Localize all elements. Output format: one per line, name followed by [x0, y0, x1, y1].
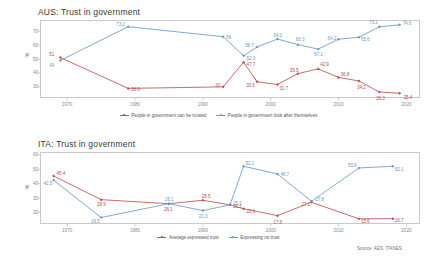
- aus-point-label: 60.3: [296, 37, 305, 42]
- ita-point-label: 26.1: [165, 197, 174, 202]
- aus-data-point: [296, 43, 299, 46]
- aus-x-tick: 2020: [396, 102, 416, 107]
- aus-y-tick: 70: [28, 29, 38, 34]
- aus-point-label: 30: [215, 83, 220, 88]
- aus-point-label: 73.2: [116, 22, 125, 27]
- aus-point-label: 34.2: [357, 85, 366, 90]
- aus-y-tick: 50: [28, 57, 38, 62]
- diamond-line-marker-icon: [157, 235, 166, 240]
- ita-point-label: 27.1: [301, 202, 310, 207]
- aus-legend-label-themselves: People in government look after themselv…: [228, 113, 317, 118]
- aus-point-label: 25.4: [404, 95, 413, 100]
- aus-point-label: 66: [226, 35, 231, 40]
- aus-data-point: [398, 23, 401, 26]
- ita-point-label: 28.5: [202, 194, 211, 199]
- diamond-line-marker-icon: [216, 113, 225, 118]
- diamond-line-marker-icon: [229, 235, 238, 240]
- ita-point-label: 46.7: [281, 172, 290, 177]
- ita-y-tick: 50: [28, 167, 38, 172]
- aus-series-line: [60, 25, 399, 61]
- aus-x-tick: 1990: [193, 102, 213, 107]
- ita-point-label: 52.1: [395, 167, 404, 172]
- ita-point-label: 16.5: [91, 219, 100, 224]
- ita-data-point: [229, 203, 232, 206]
- ita-x-tick: 2020: [396, 228, 416, 233]
- aus-point-label: 51: [49, 52, 54, 57]
- aus-data-point: [127, 87, 130, 90]
- source-note: Source: AES, ITANES: [357, 246, 402, 251]
- aus-point-label: 31.7: [280, 86, 289, 91]
- aus-x-tick: 1970: [57, 102, 77, 107]
- aus-data-point: [317, 48, 320, 51]
- ita-x-tick: 1980: [125, 228, 145, 233]
- aus-point-label: 57.1: [314, 52, 323, 57]
- ita-data-point: [276, 214, 279, 217]
- aus-data-point: [398, 92, 401, 95]
- ita-y-tick: 60: [28, 152, 38, 157]
- aus-point-label: 26.3: [376, 96, 385, 101]
- ita-data-point: [167, 202, 170, 205]
- ita-data-point: [242, 207, 245, 210]
- ita-legend-label-avg-trust: Average expressed trust: [169, 235, 219, 240]
- ita-point-label: 21.3: [199, 214, 208, 219]
- aus-point-label: 65.6: [361, 37, 370, 42]
- ita-point-label: 15.6: [361, 219, 370, 224]
- ita-point-label: 27.8: [315, 197, 324, 202]
- aus-legend-label-trusted: People in government can be trusted: [131, 113, 206, 118]
- ita-x-tick: 2010: [329, 228, 349, 233]
- ita-legend-item-no-trust[interactable]: Expressing no trust: [229, 235, 280, 240]
- aus-data-point: [127, 25, 130, 28]
- aus-x-tick: 2000: [261, 102, 281, 107]
- aus-data-point: [317, 67, 320, 70]
- ita-point-label: 42.5: [44, 181, 53, 186]
- aus-legend-item-trusted[interactable]: People in government can be trusted: [120, 113, 207, 118]
- aus-data-point: [276, 38, 279, 41]
- ita-data-point: [201, 209, 204, 212]
- ita-x-tick: 1990: [193, 228, 213, 233]
- ita-data-point: [201, 199, 204, 202]
- aus-chart-title: AUS: Trust in government: [38, 7, 140, 17]
- ita-legend-item-avg-trust[interactable]: Average expressed trust: [157, 235, 218, 240]
- aus-y-tick: 30: [28, 84, 38, 89]
- ita-point-label: 17.8: [274, 220, 283, 225]
- ita-x-tick: 2000: [261, 228, 281, 233]
- ita-plot-area: [40, 152, 420, 224]
- aus-legend: People in government can be trusted Peop…: [0, 113, 437, 118]
- ita-y-tick: 40: [28, 181, 38, 186]
- aus-data-point: [378, 25, 381, 28]
- aus-point-label: 33.6: [246, 83, 255, 88]
- aus-y-tick: 40: [28, 70, 38, 75]
- aus-x-tick: 2010: [329, 102, 349, 107]
- ita-y-tick: 20: [28, 210, 38, 215]
- aus-x-tick: 1980: [125, 102, 145, 107]
- ita-legend-label-no-trust: Expressing no trust: [240, 235, 279, 240]
- ita-data-point: [52, 174, 55, 177]
- ita-y-tick: 30: [28, 196, 38, 201]
- ita-series-svg: [40, 152, 420, 224]
- aus-data-point: [59, 59, 62, 62]
- aus-data-point: [337, 38, 340, 41]
- aus-point-label: 64.3: [274, 33, 283, 38]
- aus-point-label: 73.1: [369, 20, 378, 25]
- aus-point-label: 58.7: [245, 43, 254, 48]
- aus-point-label: 42.9: [320, 62, 329, 67]
- aus-data-point: [59, 56, 62, 59]
- aus-point-label: 74.6: [403, 21, 412, 26]
- aus-chart-panel: AUS: Trust in government % 3040506070 19…: [0, 0, 437, 130]
- ita-point-label: 45.4: [57, 171, 66, 176]
- aus-point-label: 47.7: [247, 62, 256, 67]
- ita-chart-title: ITA: Trust in government: [38, 139, 135, 149]
- ita-series-line: [54, 176, 393, 219]
- aus-point-label: 52.3: [247, 56, 256, 61]
- ita-point-label: 22.6: [247, 209, 256, 214]
- ita-x-tick: 1970: [57, 228, 77, 233]
- ita-point-label: 26.1: [164, 207, 173, 212]
- ita-data-point: [100, 198, 103, 201]
- ita-point-label: 50.9: [348, 163, 357, 168]
- aus-legend-item-themselves[interactable]: People in government look after themselv…: [216, 113, 317, 118]
- aus-point-label: 64.2: [328, 36, 337, 41]
- ita-series-line: [54, 166, 393, 217]
- ita-point-label: 25.3: [233, 201, 242, 206]
- ita-chart-panel: ITA: Trust in government % 2030405060 19…: [0, 122, 437, 260]
- ita-legend: Average expressed trust Expressing no tr…: [0, 235, 437, 240]
